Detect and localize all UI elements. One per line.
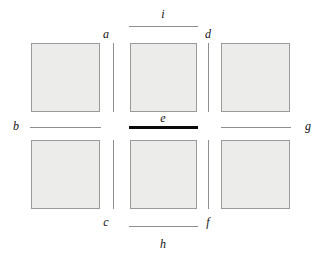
segment-a: [113, 43, 114, 112]
cell-bottom-center: [130, 140, 197, 209]
segment-label-a: a: [99, 28, 113, 40]
segment-label-h: h: [156, 238, 170, 250]
segment-label-g: g: [301, 120, 315, 132]
segment-label-c: c: [99, 216, 113, 228]
segment-label-d: d: [201, 28, 215, 40]
cell-top-center: [130, 43, 197, 112]
cell-bottom-left: [31, 140, 100, 209]
segment-label-b: b: [9, 120, 23, 132]
segment-i: [129, 26, 198, 27]
segment-c: [113, 140, 114, 209]
segment-label-f: f: [201, 216, 215, 228]
segment-e: [129, 126, 198, 129]
segment-d: [208, 43, 209, 112]
segment-g: [221, 127, 291, 128]
segment-f: [208, 140, 209, 209]
cell-top-left: [31, 43, 100, 112]
cell-top-right: [221, 43, 290, 112]
diagram-canvas: i a d b e g c f h: [0, 0, 321, 260]
segment-label-i: i: [156, 8, 170, 20]
segment-h: [129, 226, 198, 227]
segment-b: [30, 127, 101, 128]
segment-label-e: e: [156, 112, 170, 124]
cell-bottom-right: [221, 140, 290, 209]
